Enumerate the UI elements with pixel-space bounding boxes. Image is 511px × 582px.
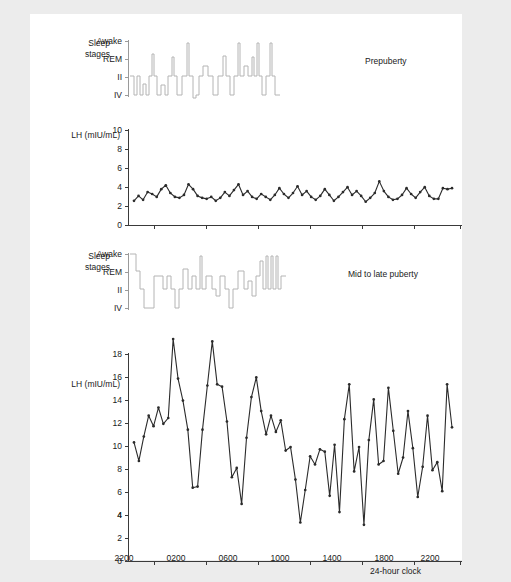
lh-data-point: [133, 441, 136, 444]
xtick-label-2: 0600: [208, 553, 248, 563]
lh-data-point: [235, 467, 238, 470]
lh-data-point: [421, 465, 424, 468]
lh-data-point: [414, 197, 417, 200]
lh-data-point: [246, 190, 249, 193]
lh-data-point: [142, 198, 145, 201]
sleep-tick-iv-bottom: IV: [88, 304, 122, 313]
mid-late-puberty-lh-chart: [128, 353, 462, 562]
lh-data-point: [192, 188, 195, 191]
lh-data-point: [416, 496, 419, 499]
panel-tag-prepuberty: Prepuberty: [365, 56, 407, 66]
lh-data-point: [401, 194, 404, 197]
lh-data-point: [405, 187, 408, 190]
lh-data-point: [224, 191, 227, 194]
lh-data-point: [310, 196, 313, 199]
sleep-tick-awake-bottom: Awake: [88, 250, 122, 259]
lh-data-point: [351, 194, 354, 197]
lh-ytick-top-8: 8: [98, 145, 122, 154]
lh-data-point: [264, 196, 267, 199]
lh-data-point: [323, 188, 326, 191]
lh-data-point: [442, 187, 445, 190]
lh-data-point: [382, 460, 385, 463]
sleep-tick-rem-bottom: REM: [88, 268, 122, 277]
lh-data-point: [419, 191, 422, 194]
panel-tag-mid-late-puberty: Mid to late puberty: [348, 269, 418, 279]
lh-data-point: [363, 523, 366, 526]
lh-data-point: [242, 194, 245, 197]
lh-data-point: [323, 450, 326, 453]
lh-data-point: [137, 195, 140, 198]
lh-data-point: [172, 338, 175, 341]
lh-data-point: [182, 399, 185, 402]
lh-data-point: [294, 478, 297, 481]
lh-data-point: [392, 198, 395, 201]
figure-page: Sleep stages Awake REM II IV Prepuberty …: [0, 0, 511, 582]
lh-data-point: [319, 195, 322, 198]
lh-data-point: [138, 460, 141, 463]
lh-data-point: [346, 186, 349, 189]
lh-data-point: [287, 197, 290, 200]
xtick-label-4: 1400: [312, 553, 352, 563]
lh-data-point: [164, 184, 167, 187]
lh-ytick-bottom-8: 8: [98, 465, 122, 474]
lh-data-point: [431, 469, 434, 472]
lh-data-point: [260, 193, 263, 196]
lh-data-point: [279, 419, 282, 422]
xaxis-caption: 24-hour clock: [370, 566, 421, 576]
lh-data-point: [314, 463, 317, 466]
xtick-label-6: 2200: [410, 553, 450, 563]
lh-data-point: [304, 489, 307, 492]
lh-data-point: [196, 485, 199, 488]
lh-ytick-bottom-16: 16: [98, 373, 122, 382]
lh-data-point: [296, 185, 299, 188]
lh-data-point: [155, 196, 158, 199]
lh-data-point: [206, 384, 209, 387]
lh-data-point: [214, 199, 217, 202]
lh-data-point: [273, 194, 276, 197]
lh-data-point: [305, 190, 308, 193]
lh-data-point: [423, 186, 426, 189]
lh-data-point: [157, 406, 160, 409]
lh-data-point: [367, 439, 370, 442]
lh-data-point: [178, 197, 181, 200]
lh-data-point: [436, 461, 439, 464]
lh-data-point: [169, 192, 172, 195]
lh-data-point: [177, 377, 180, 380]
lh-ytick-bottom-2: 2: [98, 534, 122, 543]
lh-data-point: [333, 443, 336, 446]
lh-data-point: [328, 494, 331, 497]
lh-data-point: [328, 194, 331, 197]
lh-data-point: [410, 193, 413, 196]
lh-data-point: [338, 511, 341, 514]
lh-series-path: [134, 181, 452, 201]
lh-data-point: [373, 192, 376, 195]
lh-data-point: [392, 429, 395, 432]
lh-data-point: [446, 188, 449, 191]
figure-card: Sleep stages Awake REM II IV Prepuberty …: [30, 14, 462, 560]
prepuberty-hypnogram: [130, 38, 320, 100]
lh-data-point: [343, 418, 346, 421]
lh-data-point: [353, 470, 356, 473]
lh-data-point: [441, 490, 444, 493]
lh-data-point: [299, 521, 302, 524]
sleep-tick-rem-top: REM: [88, 55, 122, 64]
lh-data-point: [355, 190, 358, 193]
sleep-tick-awake-top: Awake: [88, 37, 122, 46]
lh-data-point: [407, 410, 410, 413]
lh-ytick-bottom-4b: 4: [98, 511, 122, 520]
mid-late-puberty-hypnogram: [130, 251, 320, 313]
lh-ytick-bottom-10: 10: [98, 442, 122, 451]
lh-data-point: [240, 503, 243, 506]
lh-ytick-bottom-18: 18: [98, 350, 122, 359]
lh-ytick-top-0: 0: [98, 221, 122, 230]
lh-data-point: [255, 197, 258, 200]
lh-data-point: [387, 386, 390, 389]
lh-data-point: [364, 200, 367, 203]
sleep-tick-ii-top: II: [88, 73, 122, 82]
lh-data-point: [292, 192, 295, 195]
lh-data-point: [174, 196, 177, 199]
sleep-tick-iv-top: IV: [88, 91, 122, 100]
lh-data-point: [183, 194, 186, 197]
hypnogram-path-bottom: [130, 254, 286, 308]
lh-data-point: [396, 197, 399, 200]
